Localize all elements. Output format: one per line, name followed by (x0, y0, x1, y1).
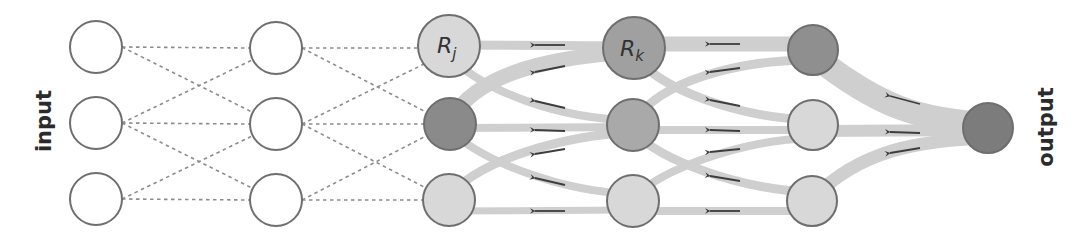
forward-connections-layer-2 (302, 48, 426, 200)
forward-connections-layer-1 (122, 47, 252, 200)
input-node (70, 21, 122, 73)
output-node (963, 103, 1013, 153)
input-label: input (32, 90, 56, 152)
hidden-layer-1 (250, 22, 302, 226)
hidden-node (250, 98, 302, 150)
input-layer (70, 21, 122, 225)
output-label: output (1034, 87, 1058, 166)
hidden-layer-4 (787, 25, 838, 226)
arrow-icon (535, 130, 565, 131)
hidden-node (607, 175, 659, 227)
output-layer (963, 103, 1013, 153)
hidden-node (787, 176, 837, 226)
hidden-node (788, 100, 838, 150)
hidden-node (423, 174, 475, 226)
hidden-node (250, 174, 302, 226)
arrow-icon (890, 132, 920, 133)
hidden-node (250, 22, 302, 74)
input-node (70, 97, 122, 149)
hidden-node (607, 99, 659, 151)
hidden-node (788, 25, 838, 75)
relevance-flows (449, 44, 988, 211)
relevance-propagation-diagram: input output (0, 0, 1084, 247)
arrow-icon (710, 130, 740, 131)
input-node (70, 173, 122, 225)
hidden-node (424, 98, 476, 150)
